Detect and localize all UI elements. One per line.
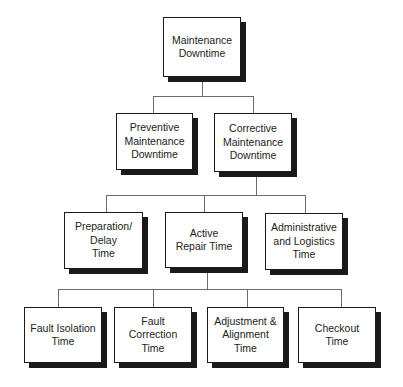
node-preparation-delay-time: Preparation/ Delay Time [64, 212, 143, 269]
connector [106, 195, 306, 196]
node-adjustment-alignment-time: Adjustment & Alignment Time [207, 307, 284, 363]
connector [204, 195, 205, 212]
connector [153, 289, 154, 307]
connector [247, 289, 248, 307]
connector [58, 289, 342, 290]
node-active-repair-time: Active Repair Time [165, 212, 243, 268]
node-fault-isolation-time: Fault Isolation Time [24, 307, 102, 363]
connector [106, 195, 107, 212]
node-administrative-logistics-time: Administrative and Logistics Time [265, 213, 343, 270]
node-checkout-time: Checkout Time [298, 307, 376, 363]
connector [253, 96, 254, 113]
node-preventive-maintenance-downtime: Preventive Maintenance Downtime [116, 113, 193, 170]
node-fault-correction-time: Fault Correction Time [114, 307, 192, 363]
node-corrective-maintenance-downtime: Corrective Maintenance Downtime [214, 113, 292, 172]
connector [153, 96, 154, 113]
connector [341, 289, 342, 307]
connector [202, 77, 203, 96]
node-maintenance-downtime: Maintenance Downtime [163, 17, 241, 77]
connector [305, 195, 306, 213]
connector [256, 172, 257, 195]
connector [207, 268, 208, 289]
connector [153, 96, 254, 97]
connector [58, 289, 59, 307]
